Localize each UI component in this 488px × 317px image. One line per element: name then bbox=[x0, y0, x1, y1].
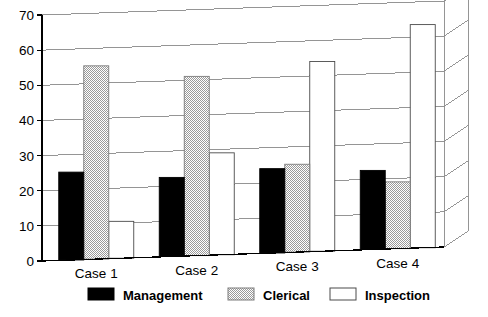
bar-inspection-case-2 bbox=[209, 153, 234, 255]
bar-chart: 010203040506070 Case 1Case 2Case 3Case 4… bbox=[0, 0, 488, 317]
y-tick-label: 60 bbox=[19, 43, 34, 58]
bar-clerical-case-4 bbox=[385, 182, 410, 249]
bar-management-case-4 bbox=[360, 170, 385, 249]
category-label-case-3: Case 3 bbox=[276, 259, 319, 274]
bar-management-case-3 bbox=[260, 169, 285, 253]
y-tick-label: 50 bbox=[19, 78, 34, 93]
bar-management-case-2 bbox=[159, 177, 184, 256]
legend-label-management: Management bbox=[123, 288, 203, 303]
category-label-case-4: Case 4 bbox=[376, 256, 419, 271]
y-tick-label: 40 bbox=[19, 113, 34, 128]
category-label-case-1: Case 1 bbox=[75, 266, 118, 281]
chart-canvas: 010203040506070 Case 1Case 2Case 3Case 4… bbox=[0, 0, 488, 317]
y-tick-label: 20 bbox=[19, 184, 34, 199]
legend-swatch-management bbox=[88, 288, 114, 300]
bar-inspection-case-4 bbox=[410, 25, 435, 248]
y-tick-label: 0 bbox=[26, 254, 34, 269]
legend-swatch-clerical bbox=[228, 288, 254, 300]
y-tick-label: 70 bbox=[19, 8, 34, 23]
bar-clerical-case-2 bbox=[184, 76, 209, 255]
bar-management-case-1 bbox=[59, 172, 84, 260]
bar-inspection-case-1 bbox=[109, 221, 134, 258]
legend-label-clerical: Clerical bbox=[263, 288, 310, 303]
category-label-case-2: Case 2 bbox=[175, 263, 218, 278]
y-tick-label: 10 bbox=[19, 219, 34, 234]
bar-clerical-case-1 bbox=[84, 66, 109, 259]
bar-inspection-case-3 bbox=[310, 61, 335, 251]
legend-swatch-inspection bbox=[330, 288, 356, 300]
y-tick-label: 30 bbox=[19, 149, 34, 164]
bar-clerical-case-3 bbox=[285, 164, 310, 252]
legend-label-inspection: Inspection bbox=[365, 288, 430, 303]
